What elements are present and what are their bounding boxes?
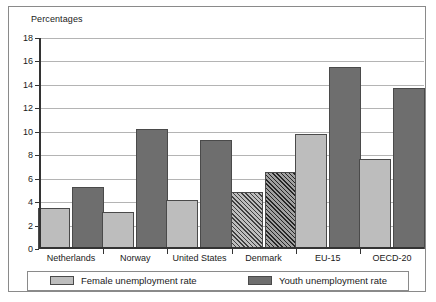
bar-female [38, 208, 70, 249]
legend-swatch-youth-icon [248, 276, 272, 285]
legend-entry-youth[interactable]: Youth unemployment rate [248, 275, 387, 286]
legend-label: Youth unemployment rate [279, 275, 387, 286]
gridline [39, 108, 424, 109]
bar-female [166, 200, 198, 249]
bar-female [231, 192, 263, 249]
legend-label: Female unemployment rate [81, 275, 197, 286]
plot-frame: 024681012141618 [39, 38, 424, 249]
gridline [39, 61, 424, 62]
gridline [39, 85, 424, 86]
y-tick-label: 16 [23, 56, 33, 66]
x-axis-line [39, 247, 424, 249]
y-tick-label: 18 [23, 33, 33, 43]
chart-legend: Female unemployment rateYouth unemployme… [27, 271, 409, 291]
bar-youth [329, 67, 361, 249]
bar-youth [393, 88, 425, 249]
x-axis-label-oecd-20: OECD-20 [372, 253, 411, 263]
y-tick-label: 8 [28, 150, 33, 160]
bar-youth [72, 187, 104, 249]
x-axis-label-eu-15: EU-15 [315, 253, 341, 263]
x-axis-label-denmark: Denmark [245, 253, 282, 263]
y-axis-line [39, 38, 41, 249]
y-tick-label: 0 [28, 244, 33, 254]
x-axis-label-netherlands: Netherlands [47, 253, 96, 263]
gridline [39, 132, 424, 133]
bar-youth [265, 172, 297, 249]
y-tick-label: 4 [28, 197, 33, 207]
bar-female [102, 212, 134, 250]
y-tick-label: 12 [23, 103, 33, 113]
chart-figure: Percentages 024681012141618 NetherlandsN… [8, 6, 426, 292]
bar-female [295, 134, 327, 249]
chart-axis-title: Percentages [31, 14, 83, 24]
y-tick-label: 10 [23, 127, 33, 137]
bar-female [359, 159, 391, 249]
bar-youth [200, 140, 232, 249]
legend-entry-female[interactable]: Female unemployment rate [50, 275, 197, 286]
legend-swatch-female-icon [50, 276, 74, 285]
gridline [39, 38, 424, 39]
y-tick-label: 14 [23, 80, 33, 90]
y-tick-label: 6 [28, 174, 33, 184]
x-axis-label-norway: Norway [120, 253, 151, 263]
bar-youth [136, 129, 168, 249]
y-tick-mark [35, 249, 39, 250]
plot-area: 024681012141618 [39, 38, 424, 249]
y-tick-label: 2 [28, 221, 33, 231]
x-axis-labels: NetherlandsNorwayUnited StatesDenmarkEU-… [39, 253, 424, 267]
x-axis-label-united-states: United States [172, 253, 226, 263]
